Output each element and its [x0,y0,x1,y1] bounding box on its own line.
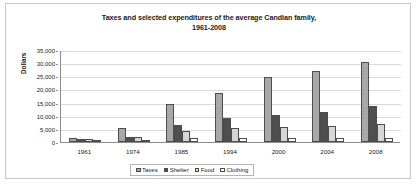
x-axis-tick-label: 2000 [272,148,286,155]
legend-swatch-icon [164,168,169,173]
bar-taxes [118,128,126,142]
bar-shelter [369,106,377,142]
bar-taxes [166,104,174,142]
legend-swatch-icon [220,168,225,173]
bar-clothing [336,138,344,142]
bar-taxes [361,62,369,142]
y-axis-tick-label: 15,000 [37,101,55,107]
bar-food [182,131,190,142]
bar-clothing [142,140,150,142]
y-axis-tick-mark [56,117,58,118]
y-axis-tick-label: 10,000 [37,114,55,120]
chart-title: Taxes and selected expenditures of the a… [6,13,412,33]
legend-label: Taxes [142,167,158,173]
bar-clothing [190,138,198,142]
bar-group [61,50,110,142]
bar-group [158,50,207,142]
x-axis-tick-labels: 1961197419851994200020042008 [60,148,400,160]
bar-shelter [223,118,231,142]
bar-shelter [77,139,85,142]
bar-food [134,137,142,142]
bar-shelter [320,112,328,142]
x-axis-tick-label: 1974 [126,148,140,155]
plot-area [60,51,400,143]
bar-food [85,139,93,142]
x-axis-tick-label: 2004 [320,148,334,155]
legend-item-taxes[interactable]: Taxes [136,167,158,173]
legend-item-clothing[interactable]: Clothing [220,167,248,173]
y-axis-tick-label: 25,000 [37,74,55,80]
bar-taxes [215,93,223,142]
bar-clothing [239,138,247,142]
legend-item-shelter[interactable]: Shelter [164,167,189,173]
bar-clothing [385,138,393,142]
plot-wrapper [60,51,400,143]
bar-shelter [126,137,134,142]
bar-food [231,128,239,142]
x-axis-tick-label: 2008 [369,148,383,155]
legend-item-food[interactable]: Food [195,167,215,173]
y-axis-tick-mark [56,64,58,65]
legend-label: Clothing [226,167,248,173]
bar-shelter [272,115,280,142]
bar-taxes [312,71,320,142]
bar-shelter [174,125,182,142]
x-axis-tick-label: 1994 [223,148,237,155]
x-axis-tick-label: 1961 [77,148,91,155]
y-axis-tick-mark [56,143,58,144]
legend-swatch-icon [195,168,200,173]
legend-label: Shelter [170,167,189,173]
bar-clothing [288,138,296,142]
bar-food [280,127,288,142]
bar-group [304,50,353,142]
y-axis-tick-label: 30,000 [37,61,55,67]
y-axis-tick-mark [56,104,58,105]
y-axis-tick-label: 35,000 [37,48,55,54]
bar-group [255,50,304,142]
y-axis-tick-mark [56,130,58,131]
y-axis-tick-mark [56,51,58,52]
chart-container: Taxes and selected expenditures of the a… [5,3,411,179]
y-axis-tick-labels: 05,00010,00015,00020,00025,00030,00035,0… [6,47,58,147]
bar-food [377,124,385,142]
y-axis-tick-mark [56,77,58,78]
bar-food [328,126,336,142]
bar-group [110,50,159,142]
bar-taxes [69,138,77,142]
x-axis-tick-label: 1985 [175,148,189,155]
bar-group [352,50,401,142]
y-axis-tick-mark [56,90,58,91]
chart-title-line-1: Taxes and selected expenditures of the a… [6,13,412,23]
y-axis-tick-label: 0 [52,140,55,146]
bar-group [207,50,256,142]
legend-swatch-icon [136,168,141,173]
bar-clothing [93,140,101,142]
y-axis-tick-label: 5,000 [40,127,55,133]
bar-taxes [264,77,272,142]
y-axis-tick-label: 20,000 [37,87,55,93]
chart-legend: TaxesShelterFoodClothing [130,164,254,176]
chart-title-line-2: 1961-2008 [6,23,412,33]
legend-label: Food [201,167,215,173]
